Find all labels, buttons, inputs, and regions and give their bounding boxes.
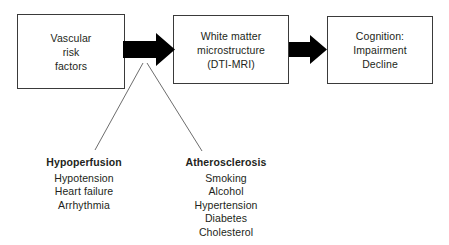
group-hypoperfusion-item-3: Arrhythmia [12,199,156,213]
group-hypoperfusion-heading: Hypoperfusion [12,156,156,170]
group-atherosclerosis: Atherosclerosis Smoking Alcohol Hyperten… [152,156,300,240]
group-atherosclerosis-item-1: Smoking [152,172,300,186]
group-atherosclerosis-item-3: Hypertension [152,199,300,213]
arrow-whitematter-to-cognition-icon [289,35,327,64]
group-atherosclerosis-item-5: Cholesterol [152,226,300,240]
group-hypoperfusion-item-2: Heart failure [12,185,156,199]
arrow-risk-to-whitematter-icon [123,33,175,66]
group-atherosclerosis-item-2: Alcohol [152,185,300,199]
pathway-diagram: Vascular risk factors White matter micro… [0,0,449,245]
group-hypoperfusion-item-1: Hypotension [12,172,156,186]
group-hypoperfusion: Hypoperfusion Hypotension Heart failure … [12,156,156,212]
group-atherosclerosis-item-4: Diabetes [152,212,300,226]
group-atherosclerosis-heading: Atherosclerosis [152,156,300,170]
